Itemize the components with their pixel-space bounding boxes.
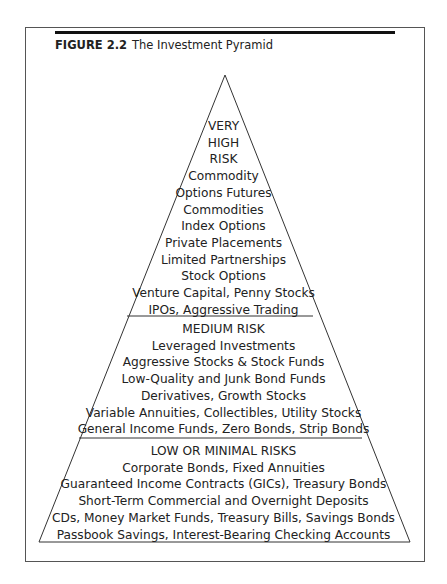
tier-item: Passbook Savings, Interest-Bearing Check… bbox=[0, 527, 447, 544]
tier-item: Leveraged Investments bbox=[0, 338, 447, 355]
tier-item: Variable Annuities, Collectibles, Utilit… bbox=[0, 405, 447, 422]
tier-medium-risk: MEDIUM RISK Leveraged Investments Aggres… bbox=[0, 321, 447, 438]
tier-item: Venture Capital, Penny Stocks bbox=[0, 285, 447, 302]
tier-heading: VERY bbox=[0, 118, 447, 135]
tier-item: Guaranteed Income Contracts (GICs), Trea… bbox=[0, 476, 447, 493]
tier-very-high-risk: VERY HIGH RISK Commodity Options Futures… bbox=[0, 118, 447, 318]
tier-item: Stock Options bbox=[0, 268, 447, 285]
tier-heading: LOW OR MINIMAL RISKS bbox=[0, 443, 447, 460]
tier-item: Index Options bbox=[0, 218, 447, 235]
tier-heading: HIGH bbox=[0, 135, 447, 152]
tier-item: Commodity bbox=[0, 168, 447, 185]
tier-item: Commodities bbox=[0, 202, 447, 219]
tier-item: Derivatives, Growth Stocks bbox=[0, 388, 447, 405]
tier-low-or-minimal-risks: LOW OR MINIMAL RISKS Corporate Bonds, Fi… bbox=[0, 443, 447, 543]
tier-item: Corporate Bonds, Fixed Annuities bbox=[0, 460, 447, 477]
tier-item: IPOs, Aggressive Trading bbox=[0, 302, 447, 319]
tier-item: Short-Term Commercial and Overnight Depo… bbox=[0, 493, 447, 510]
tier-item: Aggressive Stocks & Stock Funds bbox=[0, 354, 447, 371]
tier-item: CDs, Money Market Funds, Treasury Bills,… bbox=[0, 510, 447, 527]
tier-item: Low-Quality and Junk Bond Funds bbox=[0, 371, 447, 388]
tier-item: General Income Funds, Zero Bonds, Strip … bbox=[0, 421, 447, 438]
tier-item: Limited Partnerships bbox=[0, 252, 447, 269]
tier-heading: MEDIUM RISK bbox=[0, 321, 447, 338]
tier-heading: RISK bbox=[0, 151, 447, 168]
tier-item: Private Placements bbox=[0, 235, 447, 252]
tier-item: Options Futures bbox=[0, 185, 447, 202]
